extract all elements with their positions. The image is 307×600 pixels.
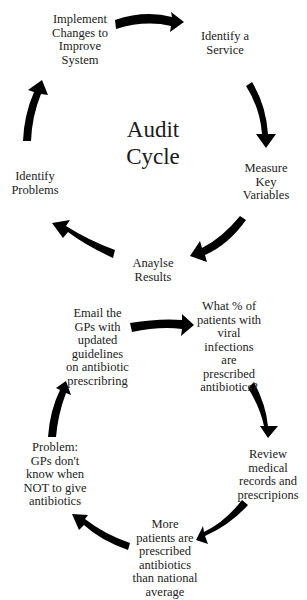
step-analyse-results: Anaylse Results xyxy=(120,257,186,284)
example-step-problem: Problem: GPs don't know when NOT to give… xyxy=(20,441,90,509)
example-step-finding: More patients are prescribed antibiotics… xyxy=(125,518,205,599)
example-step-review-records: Review medical records and prescripions xyxy=(232,448,304,502)
arrow-analyse-to-problems-icon xyxy=(52,220,115,258)
arrow-problem-to-action-icon xyxy=(48,381,71,437)
example-step-action: Email the GPs with updated guidelines on… xyxy=(60,307,135,388)
arrow-identify-to-measure-icon xyxy=(246,82,276,148)
step-identify-problems: Identify Problems xyxy=(5,170,65,197)
arrow-problems-to-implement-icon xyxy=(23,80,48,141)
step-identify-service: Identify a Service xyxy=(185,30,265,57)
arrow-action-to-question-icon xyxy=(130,314,194,336)
arrow-finding-to-problem-icon xyxy=(72,514,130,550)
example-step-question: What % of patients with viral infections… xyxy=(190,300,268,395)
arrow-measure-to-analyse-icon xyxy=(190,216,246,262)
step-implement-changes: Implement Changes to Improve System xyxy=(40,13,120,67)
audit-cycle-title: Audit Cycle xyxy=(118,116,188,170)
step-measure-variables: Measure Key Variables xyxy=(230,162,302,203)
arrow-implement-to-identify-icon xyxy=(115,12,184,32)
